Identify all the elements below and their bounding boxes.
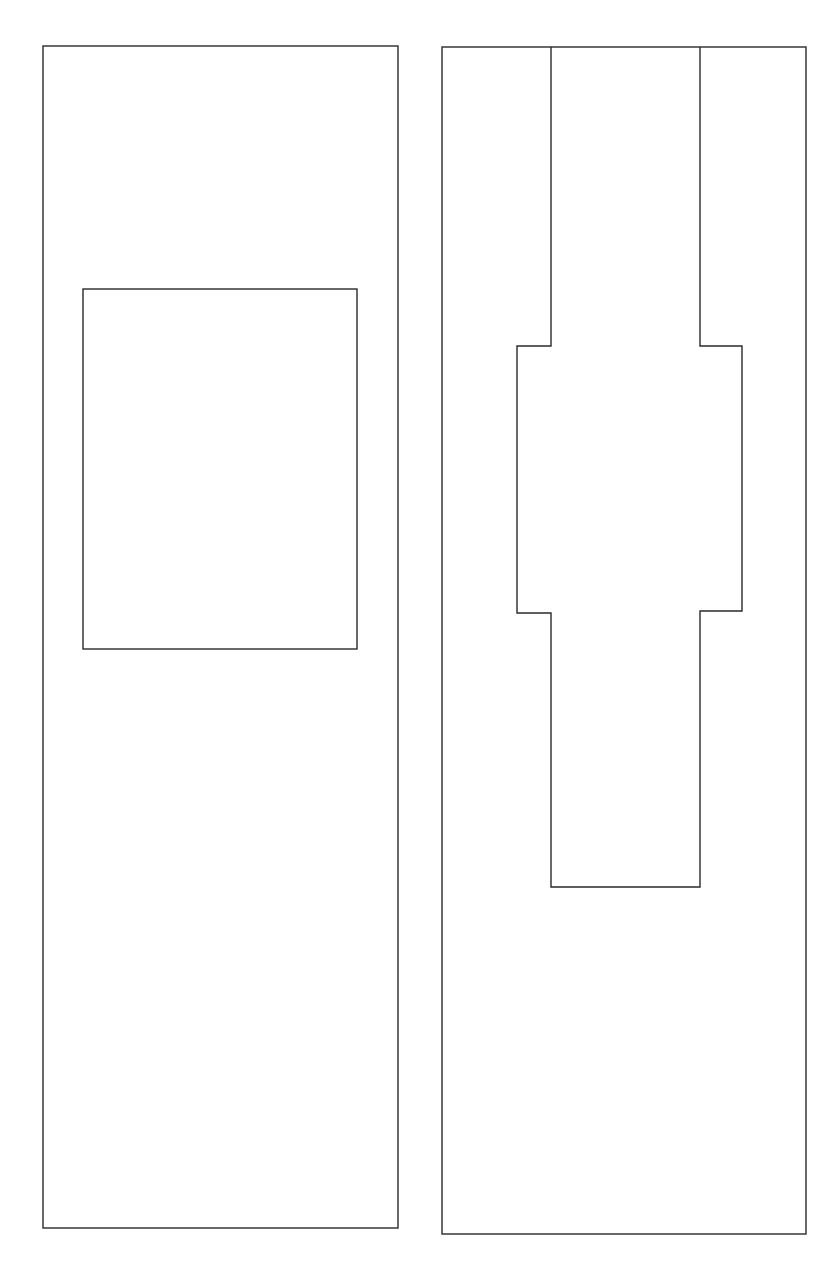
canvas-background — [0, 0, 837, 1279]
diagram-canvas — [0, 0, 837, 1279]
